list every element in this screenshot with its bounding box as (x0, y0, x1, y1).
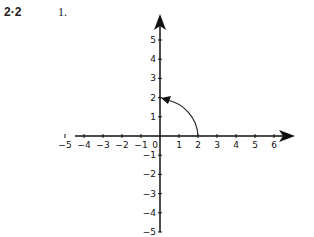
x-tick-label: 3 (214, 140, 220, 150)
y-tick-label: −2 (143, 169, 156, 179)
y-tick-label: −1 (143, 150, 156, 160)
y-tick-label: −5 (143, 227, 156, 237)
x-tick-label: 2 (195, 140, 201, 150)
x-tick-label: −2 (115, 140, 128, 150)
x-tick-label: −4 (77, 140, 91, 150)
x-tick-label: 1 (176, 140, 182, 150)
x-tick-label: −1 (134, 140, 147, 150)
y-tick-label: −4 (143, 208, 157, 218)
y-tick-label: 3 (150, 73, 156, 83)
y-tick-label: −3 (143, 189, 156, 199)
arc-arrowhead-icon (161, 96, 171, 104)
x-tick-label: 4 (233, 140, 239, 150)
y-tick-label: 4 (150, 54, 156, 64)
x-tick-label: −5 (58, 140, 71, 150)
x-tick-label: −3 (96, 140, 109, 150)
coordinate-plane: −5−4−3−2−10123456 −5−4−3−2−112345 (0, 0, 314, 237)
y-tick-label: 5 (150, 35, 156, 45)
y-tick-label: 2 (150, 93, 156, 103)
x-tick-label: 5 (252, 140, 258, 150)
rotation-arc (166, 100, 198, 136)
x-tick-label: 0 (152, 140, 158, 150)
x-tick-label: 6 (271, 140, 277, 150)
y-tick-label: 1 (150, 112, 156, 122)
